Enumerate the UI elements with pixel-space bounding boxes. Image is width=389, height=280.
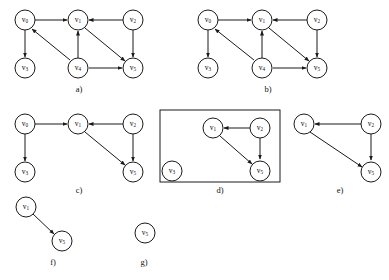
panel-a: v0 v1 v2 v3 v4 v5 a) — [15, 10, 143, 94]
panel-caption-a: a) — [76, 84, 83, 94]
panel-f: v1 v5 f) — [16, 197, 72, 267]
panel-caption-b: b) — [264, 84, 271, 94]
edge-b-v1-v5 — [269, 28, 309, 61]
edge-f-v1-v5 — [33, 214, 54, 234]
edge-b-v4-v0 — [215, 29, 254, 60]
panel-caption-c: c) — [76, 185, 83, 195]
edge-d-v1-v5 — [220, 136, 252, 164]
edge-a-v1-v5 — [85, 28, 125, 61]
edge-e-v1-v5 — [310, 132, 362, 167]
edge-c-v1-v5 — [85, 132, 125, 165]
graph-figure: v0 v1 v2 v3 v4 v5 a) — [0, 0, 389, 280]
panel-e: v1 v2 v5 e) — [294, 114, 381, 195]
edge-a-v4-v0 — [32, 29, 70, 60]
panel-caption-f: f) — [50, 257, 56, 267]
panel-caption-g: g) — [140, 257, 147, 267]
panel-caption-e: e) — [337, 185, 344, 195]
figure-canvas: v0 v1 v2 v3 v4 v5 a) — [0, 0, 389, 280]
panel-g: v5 g) — [135, 223, 155, 267]
panel-b: v0 v1 v2 v3 v4 v5 b) — [198, 10, 327, 94]
panel-caption-d: d) — [216, 185, 223, 195]
panel-d: v1 v2 v3 v5 d) — [160, 110, 280, 195]
panel-c: v0 v1 v2 v3 v5 c) — [15, 114, 143, 195]
